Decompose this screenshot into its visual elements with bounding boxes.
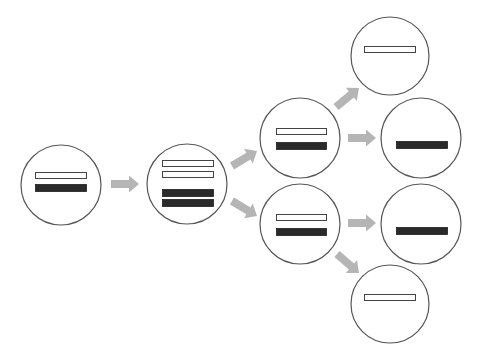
arrow-icon bbox=[228, 144, 262, 174]
cell-node bbox=[147, 144, 227, 224]
cell-node bbox=[260, 98, 340, 178]
cell-node bbox=[351, 17, 429, 95]
arrow-icon bbox=[331, 81, 365, 113]
filled-bar bbox=[277, 229, 327, 236]
open-bar bbox=[365, 295, 416, 301]
cell-circle bbox=[260, 98, 340, 178]
cell-circle bbox=[147, 144, 227, 224]
arrow-icon bbox=[331, 248, 364, 280]
nodes-layer bbox=[21, 17, 461, 343]
filled-bar bbox=[277, 143, 327, 150]
cell-node bbox=[351, 265, 429, 343]
cell-node bbox=[260, 184, 340, 264]
open-bar bbox=[277, 129, 327, 135]
arrow-icon bbox=[228, 194, 262, 224]
open-bar bbox=[36, 173, 87, 179]
open-bar bbox=[365, 47, 416, 53]
cell-node bbox=[381, 98, 461, 178]
cell-circle bbox=[381, 98, 461, 178]
filled-bar bbox=[163, 200, 214, 207]
open-bar bbox=[163, 172, 214, 178]
cell-node bbox=[21, 145, 101, 225]
cell-circle bbox=[351, 265, 429, 343]
cell-circle bbox=[351, 17, 429, 95]
arrow-icon bbox=[111, 176, 139, 193]
open-bar bbox=[277, 215, 327, 221]
cell-circle bbox=[260, 184, 340, 264]
cell-circle bbox=[381, 184, 461, 264]
division-diagram bbox=[0, 0, 480, 361]
arrow-icon bbox=[348, 130, 376, 147]
cell-node bbox=[381, 184, 461, 264]
filled-bar bbox=[397, 228, 448, 235]
arrow-icon bbox=[348, 215, 376, 232]
open-bar bbox=[163, 161, 214, 167]
filled-bar bbox=[163, 190, 214, 197]
filled-bar bbox=[397, 142, 448, 149]
filled-bar bbox=[36, 185, 87, 192]
